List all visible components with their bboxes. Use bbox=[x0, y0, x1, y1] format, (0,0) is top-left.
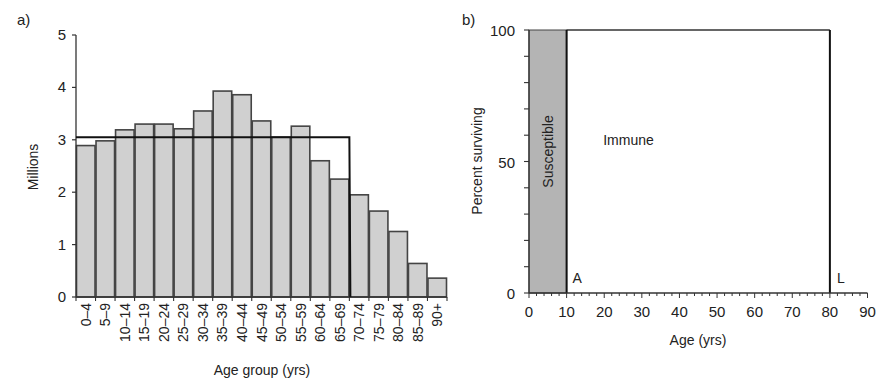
y-axis-label: Percent surviving bbox=[469, 107, 485, 214]
x-tick-label: 5–9 bbox=[97, 303, 113, 327]
y-tick-label: 2 bbox=[58, 183, 66, 200]
bar bbox=[135, 124, 154, 297]
x-tick-label: 30 bbox=[633, 303, 650, 320]
bar bbox=[408, 263, 427, 297]
bar bbox=[272, 137, 291, 297]
bar bbox=[389, 232, 408, 298]
y-tick-label: 4 bbox=[58, 78, 66, 95]
x-tick-label: 35–39 bbox=[214, 303, 230, 342]
x-tick-label: 0 bbox=[525, 303, 533, 320]
x-tick-label: 90 bbox=[859, 303, 876, 320]
x-tick-label: 0–4 bbox=[78, 303, 94, 327]
x-tick-label: 75–79 bbox=[371, 303, 387, 342]
x-tick-label: 55–59 bbox=[293, 303, 309, 342]
bars bbox=[77, 91, 447, 297]
x-tick-label: 40–44 bbox=[234, 303, 250, 342]
susceptible-label: Susceptible bbox=[540, 115, 556, 188]
bar bbox=[174, 129, 193, 297]
x-axis: 0–45–910–1415–1920–2425–2930–3435–3940–4… bbox=[76, 297, 447, 342]
x-tick-label: 10 bbox=[558, 303, 575, 320]
x-tick-label: 70–74 bbox=[351, 303, 367, 342]
y-tick-label: 1 bbox=[58, 236, 66, 253]
bar bbox=[77, 146, 96, 297]
x-tick-label: 10–14 bbox=[117, 303, 133, 342]
panel-b-survivorship-chart: b) Percent surviving Age (yrs) 050100010… bbox=[462, 11, 876, 348]
bar bbox=[291, 126, 310, 297]
y-tick-label: 50 bbox=[498, 154, 515, 171]
y-axis-label: Millions bbox=[25, 144, 41, 191]
bar bbox=[96, 141, 115, 297]
x-tick-label: 80–84 bbox=[390, 303, 406, 342]
panel-b-label: b) bbox=[462, 11, 475, 28]
x-tick-label: 30–34 bbox=[195, 303, 211, 342]
age-a-marker: A bbox=[573, 270, 583, 286]
x-tick-label: 50–54 bbox=[273, 303, 289, 342]
bar bbox=[428, 278, 447, 297]
x-axis-label: Age group (yrs) bbox=[214, 362, 310, 378]
x-tick-label: 25–29 bbox=[175, 303, 191, 342]
bar bbox=[350, 195, 369, 297]
x-axis-label: Age (yrs) bbox=[670, 332, 727, 348]
figure: a) Millions Age group (yrs) 012345 0–45–… bbox=[0, 0, 893, 389]
x-tick-label: 40 bbox=[671, 303, 688, 320]
lifespan-l-marker: L bbox=[837, 270, 845, 286]
y-axis: 012345 bbox=[58, 26, 76, 305]
x-tick-label: 60 bbox=[746, 303, 763, 320]
x-tick-label: 50 bbox=[709, 303, 726, 320]
bar bbox=[155, 124, 174, 297]
x-tick-label: 80 bbox=[822, 303, 839, 320]
immune-label: Immune bbox=[603, 132, 654, 148]
y-tick-label: 0 bbox=[507, 285, 515, 302]
bar bbox=[369, 211, 388, 297]
x-tick-label: 15–19 bbox=[136, 303, 152, 342]
bar bbox=[252, 121, 271, 297]
x-tick-label: 45–49 bbox=[254, 303, 270, 342]
x-tick-label: 20 bbox=[596, 303, 613, 320]
bar bbox=[194, 111, 213, 297]
bar bbox=[116, 130, 135, 297]
y-tick-label: 5 bbox=[58, 26, 66, 43]
bar bbox=[330, 179, 349, 297]
x-tick-label: 20–24 bbox=[156, 303, 172, 342]
x-tick-label: 65–69 bbox=[332, 303, 348, 342]
y-tick-label: 0 bbox=[58, 288, 66, 305]
y-tick-label: 100 bbox=[490, 22, 515, 39]
panel-a-age-distribution-chart: a) Millions Age group (yrs) 012345 0–45–… bbox=[17, 11, 447, 378]
x-tick-label: 90+ bbox=[429, 303, 445, 327]
bar bbox=[233, 95, 252, 297]
x-tick-label: 60–64 bbox=[312, 303, 328, 342]
panel-a-label: a) bbox=[17, 11, 30, 28]
bar bbox=[311, 161, 330, 297]
y-tick-label: 3 bbox=[58, 131, 66, 148]
bar bbox=[213, 91, 232, 297]
x-tick-label: 85–89 bbox=[410, 303, 426, 342]
x-tick-label: 70 bbox=[784, 303, 801, 320]
